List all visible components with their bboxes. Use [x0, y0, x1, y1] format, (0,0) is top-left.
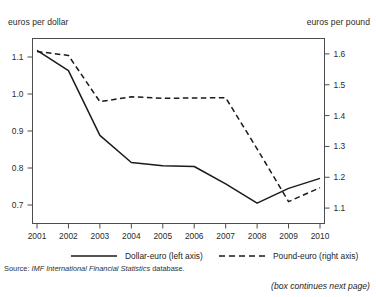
y-tick-label-left: 1.0: [12, 89, 24, 99]
y-tick-label-right: 1.5: [334, 80, 346, 90]
source-note: Source: IMF International Financial Stat…: [4, 264, 185, 273]
figure-container: euros per dollar euros per pound 0.70.80…: [0, 0, 376, 297]
y-tick-label-right: 1.1: [334, 203, 346, 213]
y-tick-label-right: 1.3: [334, 141, 346, 151]
x-axis-ticks: 2001200220032004200520062007200820092010: [28, 224, 330, 241]
y-tick-label-right: 1.2: [334, 172, 346, 182]
y-tick-label-left: 0.8: [12, 163, 24, 173]
y-tick-label-left: 0.9: [12, 126, 24, 136]
y-tick-label-left: 0.7: [12, 200, 24, 210]
box-continues-note: (box continues next page): [271, 281, 370, 291]
y-axis-right-ticks: 1.11.21.31.41.51.6: [325, 49, 346, 213]
x-tick-label: 2001: [28, 231, 47, 241]
chart-legend: Dollar-euro (left axis) Pound-euro (righ…: [71, 251, 358, 261]
x-tick-label: 2004: [122, 231, 141, 241]
y-tick-label-right: 1.6: [334, 49, 346, 59]
x-tick-label: 2009: [279, 231, 298, 241]
x-tick-label: 2010: [311, 231, 330, 241]
x-tick-label: 2006: [185, 231, 204, 241]
source-suffix: database.: [152, 264, 184, 273]
x-tick-label: 2008: [248, 231, 267, 241]
y-tick-label-right: 1.4: [334, 111, 346, 121]
source-publication: IMF International Financial Statistics: [32, 264, 151, 273]
legend-label-dollar-euro: Dollar-euro (left axis): [125, 251, 203, 261]
x-tick-label: 2007: [216, 231, 235, 241]
x-tick-label: 2005: [153, 231, 172, 241]
x-tick-label: 2002: [59, 231, 78, 241]
y-tick-label-left: 1.1: [12, 52, 24, 62]
source-prefix: Source:: [4, 264, 29, 273]
y-axis-left-ticks: 0.70.80.91.01.1: [12, 52, 33, 210]
x-tick-label: 2003: [91, 231, 110, 241]
line-chart: 0.70.80.91.01.1 1.11.21.31.41.51.6 20012…: [0, 0, 376, 297]
legend-label-pound-euro: Pound-euro (right axis): [273, 251, 358, 261]
